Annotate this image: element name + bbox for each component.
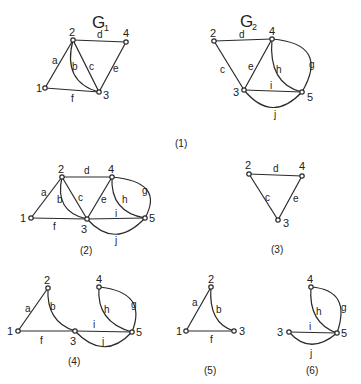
- p3-node-2: [247, 172, 251, 176]
- p2-edge-e: [87, 177, 112, 219]
- g1-elabel-a: a: [52, 55, 58, 66]
- g2-label-3: 3: [233, 86, 239, 98]
- p4-label-3: 3: [70, 335, 76, 347]
- g2-subscript: 2: [252, 22, 257, 32]
- p2-elabel-g: g: [142, 185, 148, 196]
- graph-p2: 2 4 1 3 5 d a b c e h g i f j (2): [20, 163, 155, 256]
- g2-elabel-e: e: [248, 61, 254, 72]
- graph-g1: G 1 2 4 1 3 d a b c e f: [36, 13, 129, 104]
- p4-label-2: 2: [44, 274, 50, 286]
- p2-edge-j: [87, 218, 145, 234]
- p2-elabel-b: b: [57, 194, 63, 205]
- p3-node-3: [276, 218, 280, 222]
- p4-node-2: [46, 286, 50, 290]
- g1-edge-a: [45, 40, 73, 88]
- p5-edge-b: [211, 287, 234, 331]
- p6-label-5: 5: [341, 327, 347, 339]
- graph-p6: 4 3 5 h g i j (6): [277, 273, 347, 376]
- p6-edge-j: [289, 332, 337, 344]
- p3-label-3: 3: [283, 217, 289, 229]
- g1-node-2: [71, 38, 75, 42]
- p2-label-3: 3: [81, 223, 87, 235]
- g1-node-4: [124, 40, 128, 44]
- g1-label-2: 2: [69, 26, 75, 38]
- graph-p5: 2 1 3 a b f (5): [176, 273, 245, 376]
- g2-elabel-i: i: [270, 80, 272, 91]
- p2-node-3: [85, 217, 89, 221]
- g1-elabel-e: e: [113, 63, 119, 74]
- p4-edge-i: [75, 331, 132, 332]
- p6-node-4: [309, 285, 313, 289]
- p4-elabel-b: b: [50, 301, 56, 312]
- p5-node-2: [209, 285, 213, 289]
- g2-elabel-h: h: [276, 64, 282, 75]
- p6-elabel-h: h: [316, 306, 322, 317]
- p6-elabel-i: i: [309, 321, 311, 332]
- p4-node-5: [130, 330, 134, 334]
- p4-node-3: [73, 329, 77, 333]
- p2-label-1: 1: [20, 212, 26, 224]
- caption-2: (2): [80, 245, 92, 256]
- p4-elabel-j: j: [101, 336, 104, 347]
- p4-edge-a: [18, 288, 48, 331]
- g1-elabel-f: f: [71, 93, 74, 104]
- p2-elabel-e: e: [101, 194, 107, 205]
- p3-elabel-d: d: [273, 163, 279, 174]
- g1-node-3: [97, 90, 101, 94]
- p2-node-1: [29, 216, 33, 220]
- g1-subscript: 1: [104, 23, 109, 33]
- p2-label-2: 2: [58, 163, 64, 175]
- graph-p3: 2 4 3 d c e (3): [245, 159, 305, 255]
- p4-label-5: 5: [136, 326, 142, 338]
- caption-4: (4): [68, 356, 80, 367]
- caption-3: (3): [271, 244, 283, 255]
- graph-p4: 2 4 1 3 5 a b f h g i j (4): [7, 273, 142, 367]
- p5-elabel-b: b: [216, 304, 222, 315]
- p6-label-4: 4: [307, 273, 313, 285]
- p2-elabel-i: i: [115, 208, 117, 219]
- g2-elabel-c: c: [220, 64, 225, 75]
- p4-label-1: 1: [7, 325, 13, 337]
- g1-label-4: 4: [123, 27, 129, 39]
- p6-elabel-j: j: [309, 348, 312, 359]
- p3-label-4: 4: [299, 160, 305, 172]
- p2-node-5: [143, 216, 147, 220]
- p2-node-2: [60, 175, 64, 179]
- p5-node-1: [184, 329, 188, 333]
- p3-elabel-c: c: [265, 192, 270, 203]
- graph-g2: G 2 2 4 3 5 d c e h g i j: [210, 12, 315, 120]
- p3-edge-c: [249, 174, 278, 220]
- caption-5: (5): [204, 365, 216, 376]
- p4-elabel-f: f: [40, 335, 43, 346]
- p4-node-4: [97, 285, 101, 289]
- p6-elabel-g: g: [341, 302, 347, 313]
- p2-elabel-j: j: [114, 235, 117, 246]
- p2-edge-c: [62, 177, 87, 219]
- p2-elabel-d: d: [84, 165, 90, 176]
- p3-node-4: [300, 174, 304, 178]
- p4-elabel-i: i: [93, 319, 95, 330]
- p4-label-4: 4: [96, 273, 102, 285]
- p5-edge-a: [186, 287, 211, 331]
- p5-elabel-f: f: [210, 334, 213, 345]
- g2-elabel-j: j: [273, 109, 276, 120]
- p6-edge-i: [289, 332, 337, 333]
- p3-elabel-e: e: [293, 193, 299, 204]
- p4-elabel-g: g: [131, 299, 137, 310]
- p2-elabel-h: h: [122, 194, 128, 205]
- p2-label-5: 5: [149, 212, 155, 224]
- g2-elabel-d: d: [239, 29, 245, 40]
- g2-node-3: [242, 88, 246, 92]
- g2-node-2: [212, 39, 216, 43]
- g2-node-5: [300, 90, 304, 94]
- g1-label-3: 3: [103, 89, 109, 101]
- p2-elabel-a: a: [41, 187, 47, 198]
- g2-edge-j: [244, 90, 302, 108]
- g2-edge-i: [244, 90, 302, 92]
- g1-elabel-d: d: [97, 29, 103, 40]
- p5-elabel-a: a: [192, 297, 198, 308]
- p6-label-3: 3: [277, 326, 283, 338]
- p3-label-2: 2: [245, 159, 251, 171]
- g2-edge-c: [214, 41, 244, 90]
- g1-edge-d: [73, 40, 126, 42]
